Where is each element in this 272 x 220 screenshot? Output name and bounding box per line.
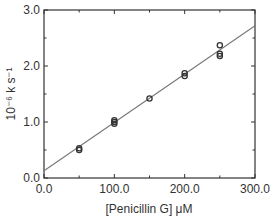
y-tick-label: 3.0 [23,3,40,17]
fit-line [44,26,255,171]
x-tick-label: 200.0 [170,182,200,196]
x-tick-label: 100.0 [99,182,129,196]
y-tick-label: 0.0 [23,171,40,185]
data-point [217,43,222,48]
x-axis-label: [Penicillin G] μM [106,202,193,216]
y-tick-label: 1.0 [23,115,40,129]
x-tick-label: 300.0 [240,182,270,196]
scatter-chart: 0.0100.0200.0300.00.01.02.03.0 [Penicill… [0,0,272,220]
plot-frame [44,10,255,178]
y-tick-label: 2.0 [23,59,40,73]
y-axis-label: 10⁻⁶ k s⁻¹ [4,68,18,121]
plot-border [44,10,255,178]
regression-line [44,26,255,171]
axis-ticks [44,10,255,178]
